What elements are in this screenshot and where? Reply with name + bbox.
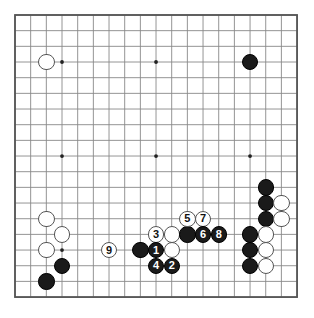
move-number-label: 3 (153, 229, 159, 240)
stone-white[interactable] (38, 54, 54, 70)
move-number-label: 1 (153, 245, 159, 256)
move-stone-4[interactable]: 4 (148, 258, 164, 274)
star-point (248, 154, 252, 158)
star-point (154, 60, 158, 64)
move-number-label: 6 (200, 229, 206, 240)
stone-white[interactable] (258, 242, 274, 258)
stone-white[interactable] (164, 226, 180, 242)
move-stone-5[interactable]: 5 (179, 211, 195, 227)
move-number-label: 5 (184, 213, 190, 224)
move-number-label: 4 (153, 260, 159, 271)
go-board-diagram: 931425768 (0, 0, 314, 318)
stone-black[interactable] (54, 258, 70, 274)
star-point (60, 60, 64, 64)
move-number-label: 8 (216, 229, 222, 240)
stone-black[interactable] (258, 211, 274, 227)
move-number-label: 2 (169, 260, 175, 271)
stone-black[interactable] (132, 242, 148, 258)
stone-black[interactable] (258, 179, 274, 195)
star-point (60, 248, 64, 252)
star-point (154, 154, 158, 158)
move-stone-6[interactable]: 6 (195, 226, 211, 242)
stone-white[interactable] (258, 226, 274, 242)
move-stone-3[interactable]: 3 (148, 226, 164, 242)
stone-white[interactable] (273, 211, 289, 227)
move-stone-2[interactable]: 2 (164, 258, 180, 274)
stone-white[interactable] (54, 226, 70, 242)
stone-white[interactable] (273, 195, 289, 211)
move-stone-7[interactable]: 7 (195, 211, 211, 227)
stone-white[interactable] (164, 242, 180, 258)
stone-black[interactable] (179, 226, 195, 242)
move-number-label: 9 (106, 245, 112, 256)
stone-white[interactable] (258, 258, 274, 274)
star-point (60, 154, 64, 158)
stone-black[interactable] (38, 273, 54, 289)
stone-black[interactable] (242, 258, 258, 274)
stone-black[interactable] (258, 195, 274, 211)
stone-black[interactable] (242, 226, 258, 242)
stone-white[interactable] (38, 211, 54, 227)
move-number-label: 7 (200, 213, 206, 224)
move-stone-8[interactable]: 8 (211, 226, 227, 242)
stone-white[interactable] (38, 242, 54, 258)
